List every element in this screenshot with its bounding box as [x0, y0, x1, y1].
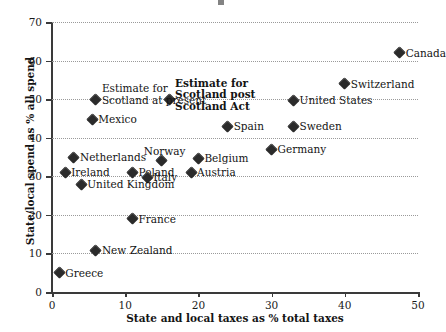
y-tick-label: 0 [4, 286, 42, 298]
data-point-label: Sweden [300, 121, 342, 133]
x-axis-line [51, 292, 419, 294]
x-tick-mark [198, 292, 200, 297]
data-point-label: Estimate for Scotland at present [102, 83, 206, 106]
data-point-label: Switzerland [351, 79, 415, 91]
data-point [126, 166, 139, 179]
data-point [126, 212, 139, 225]
data-point [53, 266, 66, 279]
data-point [90, 244, 103, 257]
x-tick-mark [272, 292, 274, 297]
x-axis-title: State and local taxes as % total taxes [52, 312, 418, 324]
x-tick-label: 0 [32, 299, 72, 311]
y-axis-title: State/local spend as % all spend [24, 11, 36, 291]
y-tick-label: 60 [4, 55, 42, 67]
x-tick-label: 30 [252, 299, 292, 311]
data-point [68, 151, 81, 164]
data-point [86, 113, 99, 126]
x-tick-mark [125, 292, 127, 297]
x-tick-mark [52, 292, 54, 297]
x-tick-mark [418, 292, 420, 297]
data-point [59, 166, 72, 179]
data-point-label: New Zealand [102, 245, 173, 257]
data-point [221, 120, 234, 133]
data-point [287, 120, 300, 133]
y-tick-label: 40 [4, 132, 42, 144]
data-point-label: Germany [278, 144, 327, 156]
y-tick-label: 20 [4, 209, 42, 221]
data-point [287, 94, 300, 107]
x-tick-label: 20 [178, 299, 218, 311]
data-point [185, 166, 198, 179]
data-point [338, 77, 351, 90]
data-point-label: Belgium [204, 153, 248, 165]
x-tick-label: 40 [325, 299, 365, 311]
y-tick-label: 10 [4, 247, 42, 259]
data-point-label: Canada [406, 48, 446, 60]
data-point-label: Norway [144, 146, 186, 158]
x-tick-label: 10 [105, 299, 145, 311]
data-point-label: Greece [65, 268, 103, 280]
y-tick-label: 50 [4, 93, 42, 105]
y-tick-label: 70 [4, 16, 42, 28]
data-point-label: France [139, 214, 176, 226]
data-point-label: Austria [197, 167, 236, 179]
data-point [75, 178, 88, 191]
data-point [192, 152, 205, 165]
data-point [90, 93, 103, 106]
y-tick-label: 30 [4, 170, 42, 182]
data-point [265, 143, 278, 156]
data-point-label: United States [300, 95, 373, 107]
data-point-label: Mexico [98, 114, 136, 126]
data-point [393, 46, 406, 59]
title-remnant [218, 0, 224, 5]
x-tick-mark [345, 292, 347, 297]
x-tick-label: 50 [398, 299, 438, 311]
data-point-label: Netherlands [80, 152, 146, 164]
plot-area: CanadaSwitzerlandUnited StatesEstimate f… [52, 22, 418, 292]
data-point-label: United Kingdom [87, 179, 174, 191]
data-point-label: Spain [234, 121, 264, 133]
